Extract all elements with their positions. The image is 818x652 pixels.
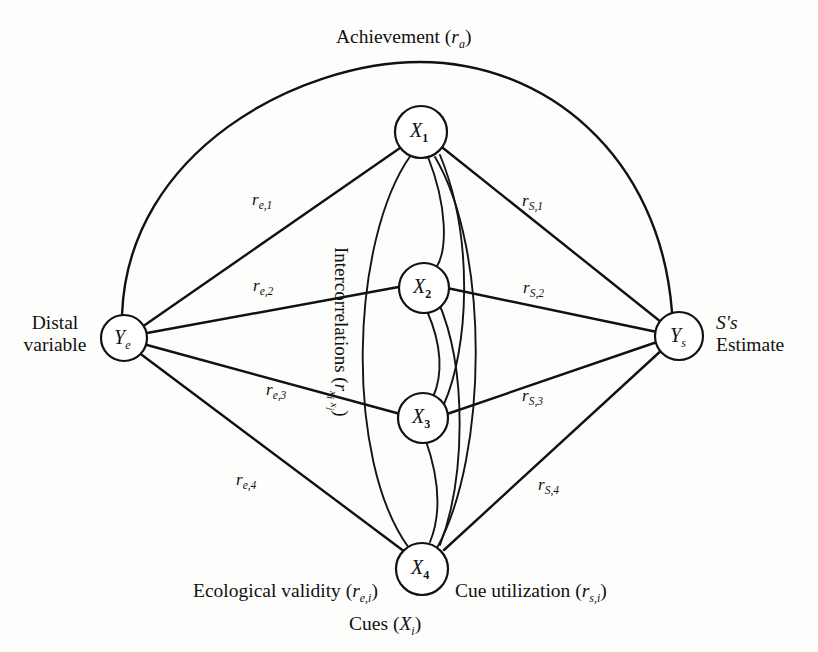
node-label-x4: X4 (411, 556, 429, 582)
cue-utilization-label: Cue utilization (rs,i) (455, 580, 607, 605)
distal-variable-caption: Distal variable (16, 312, 94, 356)
edge-label-rs4: rS,4 (538, 475, 559, 497)
edge-label-re3: re,3 (266, 380, 286, 402)
edge-label-re4: re,4 (236, 470, 256, 492)
estimate-caption-line2: Estimate (716, 334, 784, 356)
distal-caption-line1: Distal (16, 312, 94, 334)
edge-label-re2: re,2 (253, 276, 273, 298)
edge-ye-x1 (142, 148, 400, 327)
estimate-caption-line1: S's (716, 312, 784, 334)
node-label-ye: Ye (114, 326, 130, 352)
edge-achievement (122, 62, 672, 315)
node-label-ys: Ys (670, 324, 686, 350)
edge-x1-x2 (428, 157, 444, 268)
distal-caption-line2: variable (16, 334, 94, 356)
estimate-caption: S's Estimate (716, 312, 784, 356)
node-label-x2: X2 (413, 275, 431, 301)
node-label-x1: X1 (410, 119, 428, 145)
edge-x2-x3 (427, 311, 440, 397)
edge-label-rs2: rS,2 (523, 278, 544, 300)
edge-x1-x4-left (363, 155, 411, 548)
edge-label-rs1: rS,1 (522, 191, 543, 213)
lens-model-diagram: X1 X2 X3 X4 Ye Ys Distal variable S's Es… (0, 0, 818, 652)
edge-x3-ys (447, 342, 657, 414)
achievement-label: Achievement (ra) (336, 26, 471, 51)
cues-caption-label: Cues (Xi) (349, 613, 421, 638)
node-label-x3: X3 (412, 405, 430, 431)
edge-label-re1: re,1 (252, 190, 272, 212)
edge-label-rs3: rS,3 (522, 386, 543, 408)
ecological-validity-label: Ecological validity (re,i) (193, 580, 378, 605)
edge-x3-x4 (425, 438, 437, 542)
intercorrelations-label: Intercorrelations (rxi xj) (325, 247, 352, 487)
